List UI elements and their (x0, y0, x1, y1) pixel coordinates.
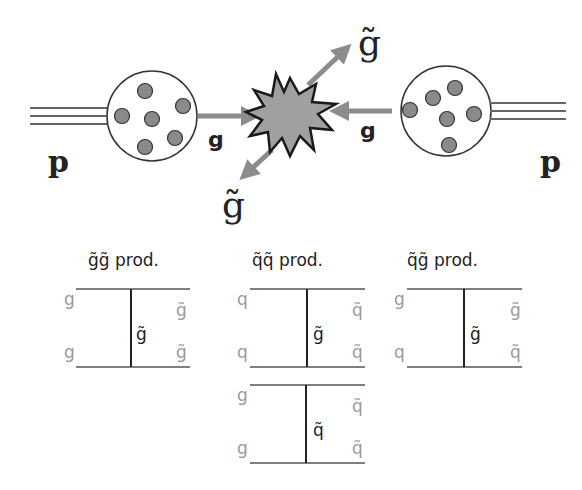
diagram-title: q̃g̃ prod. (407, 250, 478, 270)
left-proton-label: p (48, 144, 69, 179)
incoming-bottom-label: g (237, 438, 248, 458)
feynman-diagram-squark-squark: q̃q̃ prod. q q g̃ q̃ q̃ (237, 250, 365, 367)
outgoing-bottom-label: q̃ (352, 342, 363, 362)
propagator-label: g̃ (313, 324, 324, 344)
upper-gluino-label: g̃ (358, 22, 381, 63)
right-gluon-label: g (360, 118, 376, 143)
incoming-top-label: g (237, 385, 248, 405)
propagator-label: g̃ (470, 324, 481, 344)
lower-gluino-arrow (246, 150, 272, 174)
right-proton-label: p (540, 144, 561, 179)
right-proton (401, 66, 491, 156)
feynman-diagram-squark-squark-gg: g g q̃ q̃ q̃ (237, 385, 365, 463)
outgoing-top-label: g̃ (176, 300, 187, 320)
right-proton-beam (490, 103, 566, 119)
outgoing-bottom-label: g̃ (176, 342, 187, 362)
incoming-top-label: g (64, 289, 75, 309)
upper-gluino-arrow (308, 50, 345, 85)
left-proton (107, 71, 197, 161)
feynman-diagram-gluino-gluino: g̃g̃ prod. g g g̃ g̃ g̃ (64, 250, 190, 367)
incoming-top-label: q (237, 289, 248, 309)
incoming-bottom-label: q (394, 342, 405, 362)
incoming-bottom-label: q (237, 342, 248, 362)
outgoing-top-label: q̃ (352, 300, 363, 320)
gluino-production-diagram: p p g g g̃ g̃ g̃g̃ prod. g g g̃ g̃ g̃ q̃… (0, 0, 582, 490)
feynman-diagram-squark-gluino: q̃g̃ prod. g q g̃ g̃ q̃ (394, 250, 522, 367)
diagram-title: q̃q̃ prod. (252, 250, 323, 270)
lower-gluino-label: g̃ (222, 184, 245, 225)
outgoing-bottom-label: q̃ (352, 438, 363, 458)
outgoing-top-label: q̃ (352, 396, 363, 416)
left-proton-beam (30, 108, 108, 124)
left-gluon-label: g (208, 127, 224, 152)
propagator-label: g̃ (136, 324, 147, 344)
collision-burst-icon (246, 74, 336, 156)
outgoing-top-label: g̃ (510, 300, 521, 320)
outgoing-bottom-label: q̃ (510, 342, 521, 362)
propagator-label: q̃ (313, 420, 324, 440)
diagram-title: g̃g̃ prod. (88, 250, 159, 270)
incoming-top-label: g (394, 289, 405, 309)
incoming-bottom-label: g (64, 342, 75, 362)
